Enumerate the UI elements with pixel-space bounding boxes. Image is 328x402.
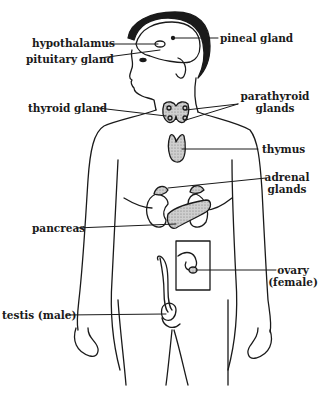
eye [140,59,146,62]
label-parathyroid-line1: parathyroid [240,90,310,102]
label-hypothalamus: hypothalamus [32,37,115,49]
hand-left [75,328,98,356]
label-testis: testis (male) [2,309,76,321]
kidney-left [147,194,168,227]
brain-outline [136,22,200,63]
leg-left [118,300,126,385]
label-thymus: thymus [262,143,305,155]
testis [162,303,177,320]
label-ovary: ovary (female) [268,264,318,288]
endocrine-diagram: hypothalamus pineal gland pituitary glan… [0,0,328,402]
inner-leg-left [166,330,172,385]
label-parathyroid-line2: glands [240,102,310,114]
leader-testis [66,314,166,315]
inner-leg-right [174,330,188,385]
thymus [169,135,186,162]
label-adrenal-glands: adrenal glands [262,171,312,195]
inner-arm-right [228,160,237,370]
leader-parathyroid-b [186,104,238,120]
label-pancreas: pancreas [32,222,85,234]
inner-arm-left [111,160,120,370]
neck-back [195,78,198,112]
leader-parathyroid-a [186,104,238,110]
adrenal-right [190,186,204,194]
label-adrenal-line1: adrenal [262,171,312,183]
adrenal-left [154,187,168,195]
label-ovary-line2: (female) [268,276,318,288]
hand-right [248,328,271,358]
label-parathyroid-glands: parathyroid glands [240,90,310,114]
leader-adrenal [168,178,266,188]
ovary-inset-box [176,241,210,290]
label-adrenal-line2: glands [262,183,312,195]
label-thyroid-gland: thyroid gland [28,102,107,114]
label-ovary-line1: ovary [268,264,318,276]
torso-right [198,112,271,332]
torso-left [77,110,156,330]
ear [176,58,186,78]
label-pituitary-gland: pituitary gland [26,53,114,65]
label-pineal-gland: pineal gland [220,32,293,44]
